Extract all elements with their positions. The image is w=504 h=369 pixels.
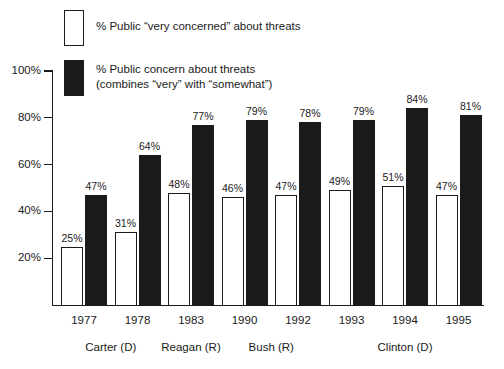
bar-value-label: 46% xyxy=(216,183,250,194)
bar-value-label: 79% xyxy=(240,106,274,117)
bar-value-label: 49% xyxy=(323,176,357,187)
bar-value-label: 47% xyxy=(430,181,464,192)
bar-value-label: 81% xyxy=(454,101,488,112)
y-axis-line xyxy=(52,71,53,306)
y-tick-label: 100% xyxy=(1,65,41,77)
bar-1993-very-concerned xyxy=(329,190,351,305)
bar-1977-very-concerned xyxy=(61,247,83,306)
president-label-clinton: Clinton (D) xyxy=(360,342,450,354)
x-axis-label-1995: 1995 xyxy=(429,315,489,327)
bar-value-label: 77% xyxy=(186,111,220,122)
president-label-reagan: Reagan (R) xyxy=(146,342,236,354)
x-axis-label-1983: 1983 xyxy=(161,315,221,327)
bar-1990-very-concerned xyxy=(222,197,244,305)
bar-chart: % Public “very concerned” about threats … xyxy=(0,0,504,369)
bar-value-label: 79% xyxy=(347,106,381,117)
bar-value-label: 48% xyxy=(162,179,196,190)
bar-1992-combined xyxy=(299,122,321,305)
bar-1983-very-concerned xyxy=(168,193,190,305)
bar-1978-combined xyxy=(139,155,161,305)
y-tick-label: 60% xyxy=(1,159,41,171)
bar-value-label: 25% xyxy=(55,233,89,244)
x-axis-label-1977: 1977 xyxy=(54,315,114,327)
bar-value-label: 51% xyxy=(376,172,410,183)
bar-1995-very-concerned xyxy=(436,195,458,305)
bar-value-label: 31% xyxy=(109,218,143,229)
y-tick-mark xyxy=(44,117,53,118)
y-tick-mark xyxy=(44,211,53,212)
x-axis-label-1978: 1978 xyxy=(108,315,168,327)
x-axis-label-1992: 1992 xyxy=(268,315,328,327)
bar-value-label: 47% xyxy=(79,181,113,192)
y-tick-label: 40% xyxy=(1,205,41,217)
y-tick-mark xyxy=(44,70,53,71)
president-label-carter: Carter (D) xyxy=(66,342,156,354)
bar-value-label: 84% xyxy=(400,94,434,105)
bar-1990-combined xyxy=(246,120,268,305)
bar-1978-very-concerned xyxy=(115,232,137,305)
bar-1994-combined xyxy=(406,108,428,305)
bar-1995-combined xyxy=(460,115,482,305)
x-axis-label-1990: 1990 xyxy=(215,315,275,327)
bar-1994-very-concerned xyxy=(382,186,404,305)
plot-area: 20%40%60%80%100% 25%47%31%64%48%77%46%79… xyxy=(0,0,504,369)
x-axis-label-1993: 1993 xyxy=(322,315,382,327)
y-tick-label: 80% xyxy=(1,112,41,124)
bar-1992-very-concerned xyxy=(275,195,297,305)
bar-1977-combined xyxy=(85,195,107,305)
bar-1983-combined xyxy=(192,125,214,305)
bar-value-label: 78% xyxy=(293,108,327,119)
bar-value-label: 64% xyxy=(133,141,167,152)
bar-1993-combined xyxy=(353,120,375,305)
x-axis-label-1994: 1994 xyxy=(375,315,435,327)
y-tick-label: 20% xyxy=(1,252,41,264)
president-label-bush: Bush (R) xyxy=(226,342,316,354)
y-tick-mark xyxy=(44,164,53,165)
bar-value-label: 47% xyxy=(269,181,303,192)
y-tick-mark xyxy=(44,258,53,259)
